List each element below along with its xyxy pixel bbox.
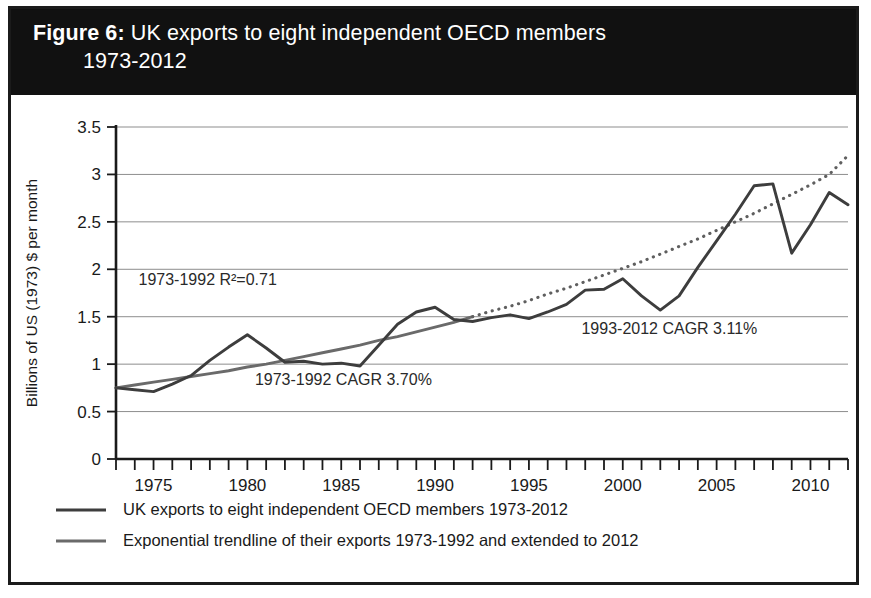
figure-title-line1: UK exports to eight independent OECD mem… bbox=[131, 21, 606, 45]
annotation-cagr-late: 1993-2012 CAGR 3.11% bbox=[581, 320, 757, 337]
annotation-cagr-early: 1973-1992 CAGR 3.70% bbox=[255, 371, 432, 388]
chart-legend: UK exports to eight independent OECD mem… bbox=[56, 500, 639, 549]
x-axis-tick-labels-group: 19751980198519901995200020052010 bbox=[135, 476, 830, 495]
figure-title-line2: 1973-2012 bbox=[33, 47, 840, 75]
figure-title-band: Figure 6: UK exports to eight independen… bbox=[11, 9, 856, 95]
y-axis-title: Billions of US (1973) $ per month bbox=[23, 179, 40, 407]
x-axis-tick-label: 2005 bbox=[698, 476, 736, 495]
y-axis-tick-label: 0 bbox=[92, 450, 101, 469]
figure-container: Figure 6: UK exports to eight independen… bbox=[0, 0, 871, 598]
page-title: Figure 6: UK exports to eight independen… bbox=[33, 19, 840, 75]
x-axis-ticks-group bbox=[116, 459, 848, 470]
x-axis-tick-label: 1995 bbox=[510, 476, 548, 495]
trendline-extended bbox=[473, 155, 848, 316]
y-axis-tick-label: 2 bbox=[92, 260, 101, 279]
x-axis-tick-label: 1985 bbox=[322, 476, 360, 495]
x-axis-tick-label: 2010 bbox=[792, 476, 830, 495]
y-axis-tick-label: 2.5 bbox=[77, 213, 101, 232]
x-axis-tick-label: 1980 bbox=[228, 476, 266, 495]
gridlines-group bbox=[116, 127, 848, 459]
x-axis-tick-label: 2000 bbox=[604, 476, 642, 495]
figure-label: Figure 6: bbox=[33, 21, 125, 45]
y-axis-tick-labels-group: 00.511.522.533.5 bbox=[77, 118, 101, 469]
y-axis-tick-label: 1.5 bbox=[77, 308, 101, 327]
x-axis-tick-label: 1975 bbox=[135, 476, 173, 495]
y-axis-tick-label: 3.5 bbox=[77, 118, 101, 137]
annotation-r-squared: 1973-1992 R²=0.71 bbox=[139, 271, 277, 288]
x-axis-tick-label: 1990 bbox=[416, 476, 454, 495]
legend-label-exports: UK exports to eight independent OECD mem… bbox=[123, 500, 568, 518]
legend-label-trendline: Exponential trendline of their exports 1… bbox=[123, 531, 639, 549]
y-axis-tick-label: 1 bbox=[92, 355, 101, 374]
y-axis-tick-label: 3 bbox=[92, 165, 101, 184]
y-axis-ticks-group bbox=[107, 127, 116, 459]
figure-frame: Figure 6: UK exports to eight independen… bbox=[8, 6, 859, 585]
y-axis-tick-label: 0.5 bbox=[77, 403, 101, 422]
chart-area: 00.511.522.533.5 19751980198519901995200… bbox=[11, 95, 856, 585]
line-chart: 00.511.522.533.5 19751980198519901995200… bbox=[11, 95, 856, 585]
